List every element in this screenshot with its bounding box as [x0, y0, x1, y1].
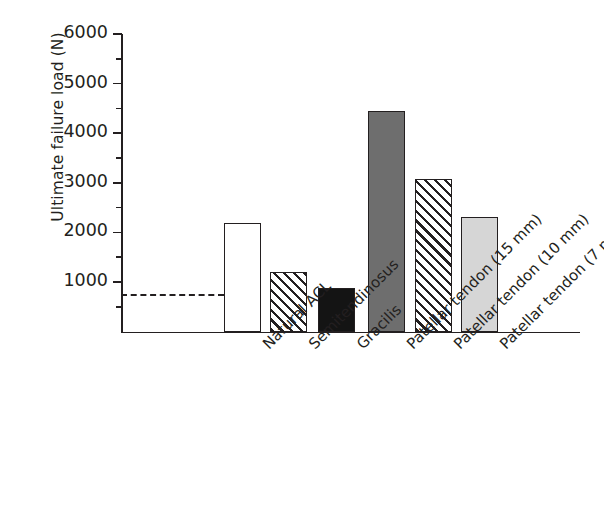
x-axis-label-2: Gracilis: [353, 340, 366, 353]
y-axis-tick-500: [116, 306, 122, 308]
bar-3: [368, 111, 405, 332]
y-axis-tick-3000: [113, 182, 122, 184]
y-axis-tick-5000: [113, 83, 122, 85]
y-axis-tick-2000: [113, 232, 122, 234]
bar-0: [224, 223, 261, 332]
y-axis-tick-4500: [116, 108, 122, 110]
y-axis-tick-label-5000: 5000: [38, 72, 108, 92]
y-axis-tick-label-6000: 6000: [38, 22, 108, 42]
x-axis-label-1: Semitendinosus: [305, 340, 318, 353]
y-axis-tick-5500: [116, 58, 122, 60]
y-axis-tick-3500: [116, 157, 122, 159]
x-axis-label-4: Patellar tendon (10 mm): [450, 340, 463, 353]
x-axis-label-5: Patellar tendon (7 mm): [496, 340, 509, 353]
y-axis-tick-label-1000: 1000: [38, 270, 108, 290]
y-axis-tick-1500: [116, 256, 122, 258]
y-axis-tick-labels: 600050004000300020001000: [32, 0, 108, 340]
y-axis-tick-6000: [113, 33, 122, 35]
chart-figure: Ultimate failure load (N) 60005000400030…: [0, 0, 604, 524]
y-axis-tick-label-3000: 3000: [38, 171, 108, 191]
x-axis-label-3: Patellar tendon (15 mm): [403, 340, 416, 353]
reference-line: [121, 294, 224, 296]
y-axis-tick-4000: [113, 132, 122, 134]
y-axis-tick-2500: [116, 207, 122, 209]
x-axis-label-0: Natural ACL: [259, 340, 272, 353]
y-axis-tick-1000: [113, 281, 122, 283]
y-axis-tick-label-4000: 4000: [38, 121, 108, 141]
y-axis-tick-label-2000: 2000: [38, 220, 108, 240]
